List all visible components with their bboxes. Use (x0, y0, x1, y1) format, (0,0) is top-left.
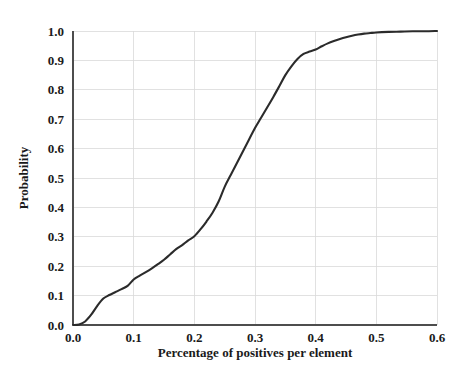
y-tick-label: 0.3 (48, 229, 65, 244)
y-tick-labels-group: 0.00.10.20.30.40.50.60.70.80.91.0 (48, 24, 65, 333)
x-tick-labels-group: 0.00.10.20.30.40.50.6 (65, 330, 446, 345)
y-tick-label: 0.4 (48, 200, 65, 215)
x-tick-label: 0.3 (247, 330, 264, 345)
cdf-line-chart: 0.00.10.20.30.40.50.6 0.00.10.20.30.40.5… (0, 0, 466, 382)
y-tick-label: 0.8 (48, 82, 65, 97)
gridlines-group (73, 31, 437, 325)
x-tick-label: 0.4 (308, 330, 325, 345)
x-tick-label: 0.0 (65, 330, 81, 345)
y-tick-label: 0.6 (48, 141, 65, 156)
y-tick-label: 0.1 (48, 288, 64, 303)
y-tick-label: 0.9 (48, 53, 65, 68)
y-tick-label: 1.0 (48, 24, 64, 39)
y-tick-label: 0.0 (48, 318, 64, 333)
x-tick-label: 0.5 (368, 330, 385, 345)
y-tick-label: 0.2 (48, 259, 64, 274)
y-tick-label: 0.5 (48, 171, 65, 186)
chart-figure: 0.00.10.20.30.40.50.6 0.00.10.20.30.40.5… (0, 0, 466, 382)
x-tick-label: 0.6 (429, 330, 446, 345)
x-tick-label: 0.2 (186, 330, 202, 345)
x-tick-label: 0.1 (126, 330, 142, 345)
y-axis-title: Probability (16, 146, 31, 209)
x-axis-title: Percentage of positives per element (158, 345, 353, 360)
y-tick-label: 0.7 (48, 112, 65, 127)
